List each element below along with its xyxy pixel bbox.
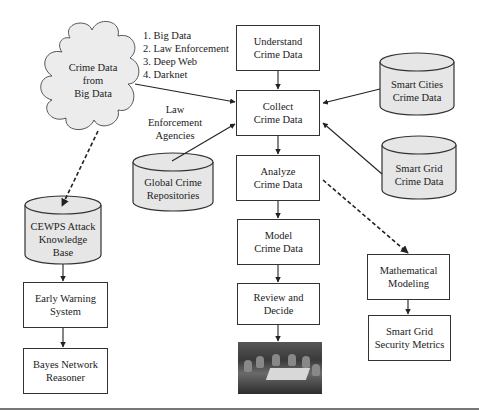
cewps-knowledge-base-label: CEWPS Attack Knowledge Base <box>25 218 101 260</box>
arrow-smartgrid-to-collect <box>323 123 382 174</box>
photo-person <box>244 360 252 372</box>
photo-person <box>312 364 320 376</box>
law-enforcement-agencies-label: Law Enforcement Agencies <box>140 103 210 142</box>
sources-list-item: 1. Big Data <box>143 29 229 42</box>
photo-person <box>272 354 280 366</box>
understand-crime-data-box: Understand Crime Data <box>236 25 320 71</box>
smart-grid-security-metrics-box: Smart Grid Security Metrics <box>368 315 451 361</box>
analyze-crime-data-box: Analyze Crime Data <box>236 155 320 201</box>
arrow-cloud-to-cewps <box>62 131 98 206</box>
bayes-network-reasoner-box: Bayes Network Reasoner <box>23 348 108 394</box>
smart-grid-crime-data-label: Smart Grid Crime Data <box>382 160 456 190</box>
crime-data-flow-diagram: Crime Data from Big Data 1. Big Data 2. … <box>0 0 479 410</box>
sources-list-item: 2. Law Enforcement <box>143 42 229 55</box>
meeting-room-photo <box>238 342 322 394</box>
model-crime-data-box: Model Crime Data <box>237 219 320 265</box>
photo-person <box>256 356 264 368</box>
sources-list-item: 4. Darknet <box>143 68 229 81</box>
smart-cities-crime-data-label: Smart Cities Crime Data <box>380 76 454 106</box>
global-crime-repositories-label: Global Crime Repositories <box>133 174 213 204</box>
collect-crime-data-box: Collect Crime Data <box>236 90 320 136</box>
mathematical-modeling-box: Mathematical Modeling <box>367 254 450 300</box>
review-and-decide-box: Review and Decide <box>237 283 320 325</box>
arrow-cloud-to-collect <box>135 84 235 102</box>
photo-person <box>302 356 310 368</box>
sources-list-item: 3. Deep Web <box>143 55 229 68</box>
photo-table <box>266 368 310 380</box>
arrow-smartcities-to-collect <box>323 89 380 103</box>
photo-person <box>288 354 296 366</box>
sources-list: 1. Big Data 2. Law Enforcement 3. Deep W… <box>143 29 229 81</box>
early-warning-system-box: Early Warning System <box>23 282 108 328</box>
cloud-label: Crime Data from Big Data <box>50 55 136 105</box>
